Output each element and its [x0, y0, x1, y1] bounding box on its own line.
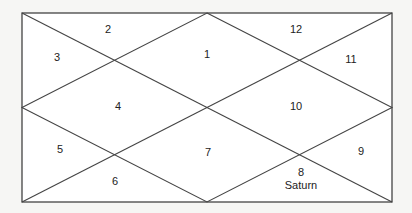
house-10-label: 10 [290, 100, 302, 112]
house-12-label: 12 [290, 23, 302, 35]
house-7-label: 7 [205, 146, 211, 158]
house-2-label: 2 [105, 23, 111, 35]
house-11-label: 11 [345, 53, 356, 65]
house-1-label: 1 [204, 48, 210, 60]
astrology-chart: 12345678Saturn9101112 [0, 0, 412, 213]
house-4-label: 4 [115, 100, 121, 112]
house-8-label: 8 [298, 166, 304, 178]
house-5-label: 5 [57, 143, 63, 155]
planet-saturn-label: Saturn [285, 179, 317, 191]
house-9-label: 9 [358, 145, 364, 157]
house-3-label: 3 [54, 51, 60, 63]
house-6-label: 6 [112, 175, 118, 187]
